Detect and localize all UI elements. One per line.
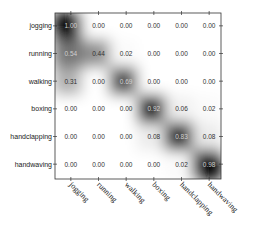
cell-value: 0.69 [120,78,133,85]
cell-value: 0.00 [65,133,78,140]
cell-value: 0.31 [65,78,78,85]
cell-value: 0.00 [148,22,161,29]
cell-value: 0.02 [120,50,133,57]
cell-value: 0.00 [92,161,105,168]
cell-value: 0.00 [175,78,188,85]
cell-value: 0.02 [203,105,216,112]
cell-value: 0.00 [148,50,161,57]
cell-value: 0.00 [148,78,161,85]
y-tick-label: running [29,50,52,58]
y-tick-label: walking [28,78,52,86]
y-tick-label: jogging [28,22,52,30]
confusion-matrix-chart: 1.000.000.000.000.000.000.540.440.020.00… [0,0,256,234]
cell-value: 0.00 [65,161,78,168]
heatmap-area [54,12,222,180]
cell-value: 0.00 [92,22,105,29]
cell-value: 0.00 [65,105,78,112]
cell-value: 0.00 [148,161,161,168]
cell-value: 0.02 [175,161,188,168]
cell-value: 0.00 [120,161,133,168]
y-tick-label: boxing [31,105,52,113]
cell-value: 0.06 [175,105,188,112]
cell-value: 0.00 [175,22,188,29]
cell-value: 0.44 [92,50,105,57]
cell-value: 0.92 [148,105,161,112]
cell-value: 0.98 [203,161,216,168]
cell-value: 1.00 [65,22,78,29]
cell-value: 0.00 [92,133,105,140]
cell-value: 0.00 [203,78,216,85]
cell-value: 0.08 [203,133,216,140]
cell-value: 0.00 [175,50,188,57]
y-tick-label: handwaving [15,161,52,169]
y-tick-label: handclapping [10,133,52,141]
cell-value: 0.00 [203,22,216,29]
cell-value: 0.00 [120,133,133,140]
cell-value: 0.00 [203,50,216,57]
cell-value: 0.00 [120,22,133,29]
cell-value: 0.54 [65,50,78,57]
cell-value: 0.00 [92,78,105,85]
cell-value: 0.00 [92,105,105,112]
cell-value: 0.83 [175,133,188,140]
cell-value: 0.08 [148,133,161,140]
cell-value: 0.00 [120,105,133,112]
